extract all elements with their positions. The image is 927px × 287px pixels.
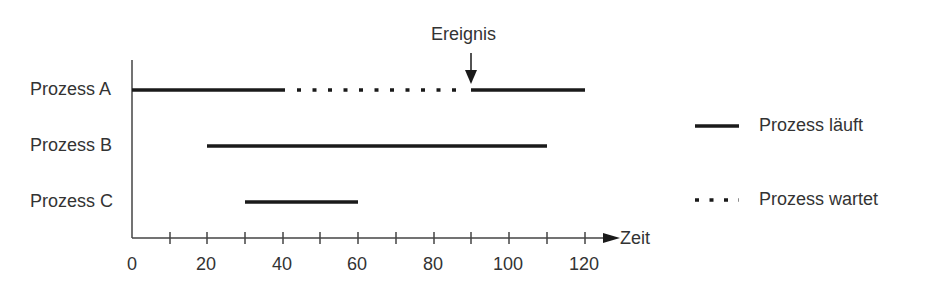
tick-label-100: 100 bbox=[493, 254, 523, 275]
tick-label-0: 0 bbox=[127, 254, 137, 275]
row-label-a: Prozess A bbox=[30, 79, 111, 100]
event-arrow-icon bbox=[465, 70, 477, 84]
tick-label-80: 80 bbox=[423, 254, 443, 275]
legend-label-running: Prozess läuft bbox=[759, 115, 863, 136]
x-axis-label: Zeit bbox=[620, 228, 650, 249]
row-label-b: Prozess B bbox=[30, 135, 112, 156]
row-label-c: Prozess C bbox=[30, 191, 113, 212]
tick-label-40: 40 bbox=[272, 254, 292, 275]
tick-label-60: 60 bbox=[347, 254, 367, 275]
x-axis-arrow-icon bbox=[603, 233, 620, 243]
legend-label-waiting: Prozess wartet bbox=[759, 189, 878, 210]
tick-label-20: 20 bbox=[196, 254, 216, 275]
event-label: Ereignis bbox=[431, 24, 496, 45]
tick-label-120: 120 bbox=[569, 254, 599, 275]
